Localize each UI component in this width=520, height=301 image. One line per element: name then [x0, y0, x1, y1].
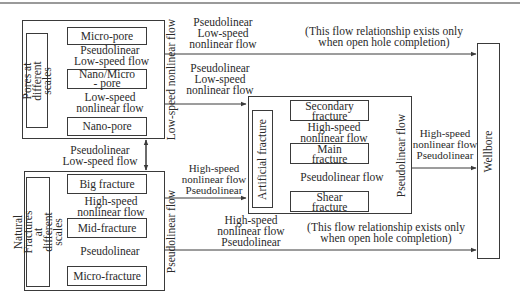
edge-label-artificial-to-wellbore: High-speed nonlinear flow Pseudolinear: [412, 128, 478, 161]
edge-label-pores-to-wellbore: Pseudolinear Low-speed nonlinear flow: [183, 17, 263, 50]
node-nano-micro-pore: Nano/Micro - pore: [67, 69, 147, 89]
edge-label-pores-to-artificial: Pseudolinear Low-speed nonlinear flow: [180, 63, 260, 96]
flow-label-mid-to-micro: Pseudolinear: [78, 246, 142, 257]
node-nano-pore: Nano-pore: [67, 117, 147, 136]
wellbore-box: Wellbore: [477, 43, 500, 259]
node-micro-fracture: Micro-fracture: [67, 266, 147, 286]
node-big-fracture: Big fracture: [67, 174, 147, 194]
node-micro-pore: Micro-pore: [67, 27, 147, 45]
artificial-group-label: Artificial fracture: [252, 110, 273, 208]
pores-side-flow-label: Low-speed nonlinear flow: [165, 20, 179, 138]
flow-label-main-to-shear: Pseudolinear flow: [297, 172, 387, 183]
note-open-hole-top: (This flow relationship exists only when…: [298, 26, 470, 48]
fractures-group-label: Natural Fractures at different scales: [26, 177, 50, 287]
node-main-fracture: Main fracture: [290, 143, 369, 164]
pores-group-label: Pores at different scales: [26, 33, 48, 128]
edge-label-fractures-to-artificial: High-speed nonlinear flow Pseudolinear: [176, 163, 252, 196]
node-secondary-fracture: Secondary fracture: [290, 100, 369, 121]
edge-label-pores-fractures: Pseudolinear Low-speed flow: [60, 145, 140, 167]
flow-label-nanomicro-to-nano: Low-speed nonlinear flow: [74, 92, 146, 114]
flow-label-big-to-mid: High-speed nonlinear flow: [76, 196, 146, 218]
flow-label-secondary-to-main: High-speed nonlinear flow: [297, 122, 371, 144]
node-shear-fracture: Shear fracture: [290, 191, 369, 212]
flow-label-micro-to-nanomicro: Pseudolinear Low-speed flow: [74, 45, 146, 67]
artificial-side-flow-label: Pseudolinear flow: [394, 96, 410, 214]
node-mid-fracture: Mid-fracture: [67, 218, 147, 238]
note-open-hole-bottom: (This flow relationship exists only when…: [300, 222, 472, 244]
edge-label-fractures-to-wellbore: High-speed nonlinear flow Pseudolinear: [212, 215, 290, 248]
